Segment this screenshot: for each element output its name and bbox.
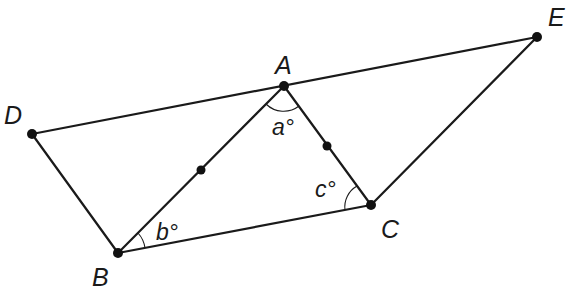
label-D: D bbox=[4, 101, 22, 129]
angle-label-b: b° bbox=[156, 219, 178, 245]
angle-label-c: c° bbox=[315, 176, 336, 202]
point-A bbox=[279, 81, 289, 91]
label-C: C bbox=[381, 215, 400, 243]
segment-DB bbox=[32, 134, 118, 253]
geometry-diagram: A B C D E a° b° c° bbox=[0, 0, 584, 302]
midpoint-AB bbox=[197, 166, 206, 175]
midpoint-AC bbox=[323, 142, 332, 151]
angle-label-a: a° bbox=[272, 114, 294, 140]
label-E: E bbox=[548, 3, 565, 31]
angle-arc-c bbox=[345, 186, 357, 210]
segment-CE bbox=[371, 37, 537, 205]
angle-arc-a bbox=[266, 104, 299, 111]
angle-arc-b bbox=[138, 233, 145, 248]
point-D bbox=[27, 129, 37, 139]
point-E bbox=[532, 32, 542, 42]
point-C bbox=[366, 200, 376, 210]
point-B bbox=[113, 248, 123, 258]
label-B: B bbox=[92, 263, 109, 291]
label-A: A bbox=[273, 51, 292, 79]
